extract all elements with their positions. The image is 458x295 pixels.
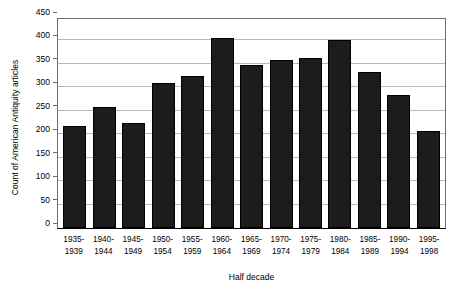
- x-axis-tick-label: 1990-1994: [385, 231, 415, 271]
- y-axis-tick-labels: 050100150200250300350400450: [0, 18, 57, 229]
- x-axis-tick-labels: 1935-19391940-19441945-19491950-19541955…: [57, 231, 446, 271]
- y-axis-tick: 150: [0, 147, 57, 159]
- x-axis-tick-label-line2: 1984: [325, 246, 355, 258]
- y-axis-tick-label: 350: [36, 53, 53, 65]
- x-axis-tick-label: 1960-1964: [207, 231, 237, 271]
- y-axis-tick-label: 450: [36, 6, 53, 18]
- y-axis-tick-label: 150: [36, 147, 53, 159]
- y-axis-tick: 100: [0, 170, 57, 182]
- x-axis-tick-label-line2: 1949: [118, 246, 148, 258]
- bar[interactable]: [240, 65, 263, 228]
- bar[interactable]: [152, 83, 175, 228]
- x-axis-tick-label-line1: 1990-: [389, 235, 410, 244]
- x-axis-tick-label-line1: 1975-: [300, 235, 321, 244]
- bar[interactable]: [270, 60, 293, 228]
- bar[interactable]: [181, 76, 204, 228]
- x-axis-tick-label: 1940-1944: [89, 231, 119, 271]
- x-axis-title: Half decade: [57, 272, 446, 282]
- bar[interactable]: [328, 40, 351, 228]
- x-axis-tick-label: 1970-1974: [266, 231, 296, 271]
- y-axis-tick: 200: [0, 123, 57, 135]
- x-axis-tick-label: 1975-1979: [296, 231, 326, 271]
- bar-slot: [237, 19, 266, 228]
- x-axis-tick-label-line1: 1940-: [93, 235, 114, 244]
- y-axis-tick-label: 400: [36, 29, 53, 41]
- x-axis-tick-label: 1995-1998: [414, 231, 444, 271]
- x-axis-tick-label-line2: 1989: [355, 246, 385, 258]
- bar[interactable]: [417, 131, 440, 228]
- x-axis-tick-label-line1: 1980-: [330, 235, 351, 244]
- y-axis-tick-label: 300: [36, 76, 53, 88]
- bar-slot: [207, 19, 236, 228]
- x-axis-tick-label-line2: 1998: [414, 246, 444, 258]
- x-axis-tick-label-line2: 1954: [148, 246, 178, 258]
- plot-area: [57, 18, 446, 229]
- y-axis-tick: 450: [0, 6, 57, 18]
- bar-slot: [266, 19, 295, 228]
- x-axis-tick-label: 1955-1959: [177, 231, 207, 271]
- x-axis-tick-label-line1: 1995-: [419, 235, 440, 244]
- x-axis-tick-label-line2: 1994: [385, 246, 415, 258]
- y-axis-tick: 400: [0, 29, 57, 41]
- y-axis-tick: 250: [0, 100, 57, 112]
- bar-slot: [89, 19, 118, 228]
- bar-series: [58, 19, 445, 228]
- x-axis-tick-label-line1: 1950-: [152, 235, 173, 244]
- bar-slot: [60, 19, 89, 228]
- bar-slot: [355, 19, 384, 228]
- x-axis-tick-label: 1945-1949: [118, 231, 148, 271]
- bar-slot: [119, 19, 148, 228]
- x-axis-tick-label-line2: 1974: [266, 246, 296, 258]
- x-axis-tick-label-line1: 1955-: [182, 235, 203, 244]
- x-axis-tick-label-line2: 1959: [177, 246, 207, 258]
- y-axis-tick-label: 100: [36, 170, 53, 182]
- x-axis-tick-label-line2: 1964: [207, 246, 237, 258]
- bar[interactable]: [358, 72, 381, 228]
- x-axis-tick-label: 1950-1954: [148, 231, 178, 271]
- y-axis-tick-label: 200: [36, 123, 53, 135]
- bar[interactable]: [122, 123, 145, 229]
- bar-slot: [414, 19, 443, 228]
- x-axis-tick-label-line1: 1970-: [271, 235, 292, 244]
- bar[interactable]: [299, 58, 322, 228]
- x-axis-tick-label-line2: 1969: [237, 246, 267, 258]
- x-axis-tick-label: 1965-1969: [237, 231, 267, 271]
- y-axis-tick-label: 0: [45, 217, 53, 229]
- y-axis-tick: 0: [0, 217, 57, 229]
- y-axis-tick-label: 250: [36, 100, 53, 112]
- y-axis-tick: 50: [0, 194, 57, 206]
- bar-slot: [178, 19, 207, 228]
- x-axis-tick-label: 1935-1939: [59, 231, 89, 271]
- x-axis-tick-label: 1980-1984: [325, 231, 355, 271]
- x-axis-tick-label-line2: 1979: [296, 246, 326, 258]
- bar-slot: [148, 19, 177, 228]
- bar[interactable]: [93, 107, 116, 228]
- x-axis-tick-label-line1: 1945-: [123, 235, 144, 244]
- x-axis-tick-label-line1: 1960-: [211, 235, 232, 244]
- x-axis-tick-label-line1: 1965-: [241, 235, 262, 244]
- x-axis-tick-label-line1: 1935-: [63, 235, 84, 244]
- y-axis-tick-mark: [53, 12, 57, 13]
- bar-slot: [384, 19, 413, 228]
- bar-slot: [325, 19, 354, 228]
- bar-chart-figure: Count of American Antiquity articles 050…: [0, 0, 458, 295]
- y-axis-tick-label: 50: [41, 194, 53, 206]
- bar-slot: [296, 19, 325, 228]
- x-axis-tick-label-line2: 1939: [59, 246, 89, 258]
- bar[interactable]: [387, 95, 410, 228]
- x-axis-tick-label-line1: 1985-: [359, 235, 380, 244]
- bar[interactable]: [63, 126, 86, 228]
- y-axis-tick: 350: [0, 53, 57, 65]
- x-axis-tick-label: 1985-1989: [355, 231, 385, 271]
- x-axis-tick-label-line2: 1944: [89, 246, 119, 258]
- bar[interactable]: [211, 38, 234, 228]
- y-axis-tick: 300: [0, 76, 57, 88]
